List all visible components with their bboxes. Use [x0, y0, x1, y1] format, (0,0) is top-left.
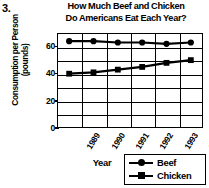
- chart-figure: 3. How Much Beef and Chicken Do American…: [0, 0, 209, 188]
- x-axis-tick-label: 1993: [182, 131, 200, 151]
- legend-label: Beef: [154, 157, 176, 168]
- x-axis-tick-label: 1992: [157, 131, 175, 151]
- chart-title-line-1: How Much Beef and Chicken: [44, 1, 208, 13]
- y-axis-title-line-2: (pounds): [20, 0, 30, 120]
- legend-label: Chicken: [154, 170, 191, 181]
- x-axis-tick-label: 1990: [109, 131, 127, 151]
- data-point-beef: [115, 39, 121, 45]
- y-axis-tick-labels: 0204060: [33, 33, 55, 128]
- legend-marker: [138, 159, 145, 166]
- series-line-beef: [69, 41, 191, 44]
- data-point-beef: [90, 38, 96, 44]
- chart-legend: BeefChicken: [124, 154, 206, 185]
- series-line-chicken: [69, 60, 191, 74]
- x-axis-tick-label: 1991: [133, 131, 151, 151]
- chart-title-line-2: Do Americans Eat Each Year?: [44, 13, 208, 25]
- y-axis-tick-label: 40: [35, 69, 55, 78]
- legend-square-marker-icon: [128, 170, 154, 182]
- data-point-chicken: [91, 69, 97, 75]
- chart-title: How Much Beef and Chicken Do Americans E…: [44, 1, 208, 24]
- legend-item-beef: Beef: [125, 156, 205, 169]
- data-point-chicken: [139, 64, 145, 70]
- legend-item-chicken: Chicken: [125, 169, 205, 182]
- data-point-chicken: [66, 71, 72, 77]
- y-axis-title-line-1: Consumption per Person: [10, 0, 20, 120]
- data-point-beef: [188, 39, 194, 45]
- y-axis-tick-label: 60: [35, 42, 55, 51]
- legend-marker: [138, 172, 145, 179]
- data-point-chicken: [188, 57, 194, 63]
- data-point-beef: [139, 39, 145, 45]
- legend-circle-marker-icon: [128, 157, 154, 169]
- y-axis-tick-label: 0: [35, 124, 55, 133]
- x-axis-tick-label: 1994: [206, 131, 209, 151]
- data-point-chicken: [115, 67, 121, 73]
- data-point-beef: [66, 38, 72, 44]
- data-point-chicken: [164, 60, 170, 66]
- data-point-beef: [163, 41, 169, 47]
- x-axis-tick-label: 1989: [84, 131, 102, 151]
- series-overlay: [57, 33, 203, 128]
- y-axis-tick-label: 20: [35, 97, 55, 106]
